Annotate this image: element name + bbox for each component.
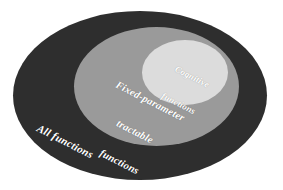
cognitive-functions-ellipse [142,40,228,105]
nested-set-diagram: All functions Fixed-parameter tractable … [0,0,283,190]
